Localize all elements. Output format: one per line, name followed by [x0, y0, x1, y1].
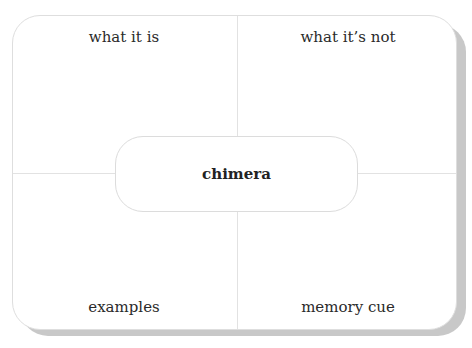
center-term: chimera [202, 165, 271, 183]
quadrant-examples: examples [13, 298, 235, 316]
quadrant-what-its-not: what it’s not [237, 28, 457, 46]
frayer-card: what it is what it’s not examples memory… [12, 15, 457, 330]
quadrant-memory-cue: memory cue [237, 298, 457, 316]
center-term-box: chimera [115, 136, 358, 212]
quadrant-what-it-is: what it is [13, 28, 235, 46]
